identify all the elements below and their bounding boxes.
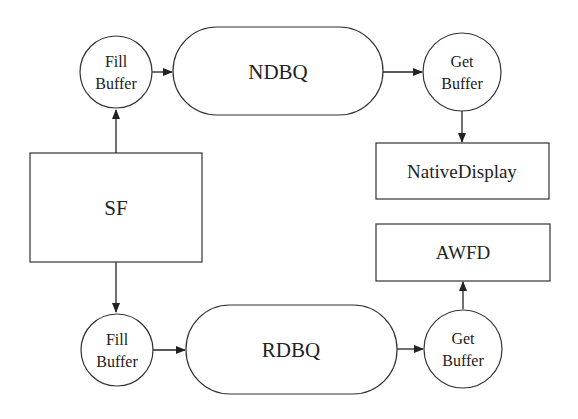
node-get-buffer-bottom: Get Buffer: [424, 310, 502, 388]
node-native-display: NativeDisplay: [376, 143, 549, 199]
node-fill-buffer-top: Fill Buffer: [80, 36, 152, 108]
node-rdbq: RDBQ: [186, 305, 397, 394]
node-awfd: AWFD: [376, 224, 550, 281]
node-get-buffer-top-line1: Get: [450, 53, 474, 70]
node-fill-buffer-top-line1: Fill: [105, 53, 128, 70]
node-get-buffer-bottom-line1: Get: [451, 330, 475, 347]
node-sf: SF: [30, 153, 202, 262]
node-get-buffer-top: Get Buffer: [423, 33, 501, 111]
node-rdbq-label: RDBQ: [262, 338, 320, 362]
node-ndbq: NDBQ: [173, 27, 383, 115]
node-get-buffer-bottom-line2: Buffer: [442, 352, 484, 369]
node-fill-buffer-bottom: Fill Buffer: [81, 314, 153, 386]
node-ndbq-label: NDBQ: [248, 60, 308, 84]
node-awfd-label: AWFD: [436, 242, 490, 263]
buffer-flow-diagram: SF Fill Buffer NDBQ Get Buffer NativeDis…: [0, 0, 578, 419]
node-fill-buffer-top-line2: Buffer: [95, 75, 137, 92]
node-sf-label: SF: [104, 196, 127, 220]
node-fill-buffer-bottom-line1: Fill: [106, 331, 129, 348]
node-fill-buffer-bottom-line2: Buffer: [96, 353, 138, 370]
node-native-display-label: NativeDisplay: [407, 161, 517, 182]
node-get-buffer-top-line2: Buffer: [441, 75, 483, 92]
